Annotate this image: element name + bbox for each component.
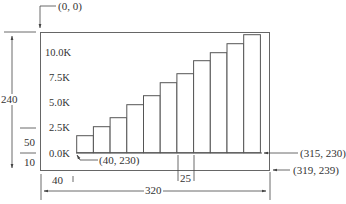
bar [127, 105, 144, 153]
plot-end-label: (315, 230) [300, 148, 346, 159]
bar [210, 53, 227, 153]
origin-leader [40, 6, 56, 28]
top-margin-label: 50 [24, 137, 35, 148]
left-margin-label: 40 [52, 175, 63, 186]
bar [177, 74, 194, 153]
y-tick-2-5k: 2.5K [49, 122, 70, 133]
bar-width-label: 25 [180, 173, 191, 184]
bar [244, 35, 261, 153]
plot-origin-leader [77, 155, 98, 160]
height-label: 240 [1, 94, 18, 105]
bars-group [77, 35, 261, 153]
y-tick-7-5k: 7.5K [49, 72, 70, 83]
origin-label: (0, 0) [58, 1, 82, 12]
frame-end-label: (319, 239) [293, 165, 339, 176]
bar [77, 136, 94, 153]
y-tick-0k: 0.0K [49, 148, 70, 159]
bar [227, 44, 244, 153]
bottom-margin-label: 10 [24, 157, 35, 168]
y-tick-10k: 10.0K [45, 47, 71, 58]
bar [93, 127, 110, 153]
bar [194, 61, 211, 153]
bar [160, 83, 177, 153]
bar [110, 118, 127, 153]
width-label: 320 [144, 185, 163, 196]
y-tick-5k: 5.0K [49, 97, 70, 108]
bar [144, 96, 161, 153]
plot-origin-label: (40, 230) [99, 155, 139, 166]
